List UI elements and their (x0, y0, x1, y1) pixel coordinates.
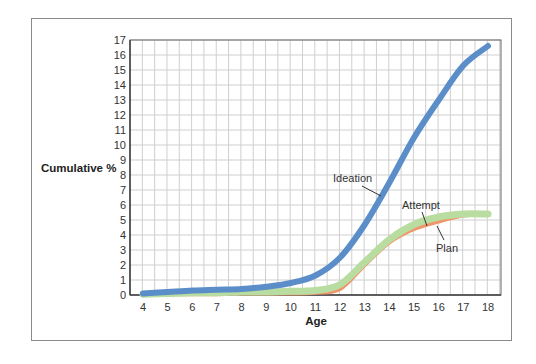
y-tick-label: 5 (120, 214, 126, 226)
x-tick-label: 18 (482, 301, 494, 313)
axes (130, 40, 501, 295)
x-axis-title: Age (305, 315, 327, 327)
y-tick-label: 17 (114, 34, 126, 46)
x-tick-label: 8 (239, 301, 245, 313)
y-tick-label: 11 (115, 124, 126, 136)
x-tick-label: 5 (165, 301, 171, 313)
y-tick-label: 12 (114, 109, 126, 121)
x-tick-label: 4 (140, 301, 146, 313)
y-tick-label: 13 (114, 94, 126, 106)
grid-lines (130, 40, 501, 295)
x-tick-label: 13 (359, 301, 371, 313)
y-tick-label: 16 (114, 49, 126, 61)
annotation-label-attempt: Attempt (402, 199, 440, 211)
x-tick-label: 16 (433, 301, 445, 313)
y-tick-label: 1 (120, 274, 126, 286)
x-tick-label: 15 (408, 301, 420, 313)
y-tick-label: 3 (120, 244, 126, 256)
annotation-leader-ideation (362, 186, 381, 196)
plot-border (130, 40, 501, 295)
x-tick-label: 9 (263, 301, 269, 313)
series-line-attempt (143, 214, 488, 294)
x-tick-label: 6 (189, 301, 195, 313)
x-tick-label: 12 (334, 301, 346, 313)
series-lines (143, 46, 488, 295)
y-tick-label: 8 (120, 169, 126, 181)
series-line-plan (143, 214, 488, 295)
x-tick-label: 10 (285, 301, 297, 313)
y-axis-title: Cumulative % (41, 162, 116, 174)
y-tick-label: 7 (120, 184, 126, 196)
annotation-label-ideation: Ideation (333, 172, 372, 184)
x-tick-label: 14 (383, 301, 395, 313)
y-tick-label: 2 (120, 259, 126, 271)
line-chart: 01234567891011121314151617 4567891011121… (0, 0, 536, 364)
y-tick-label: 6 (120, 199, 126, 211)
series-line-ideation (143, 46, 488, 294)
y-tick-label: 15 (114, 64, 126, 76)
y-tick-label: 14 (114, 79, 126, 91)
x-tick-label: 11 (310, 301, 321, 313)
y-tick-label: 4 (120, 229, 126, 241)
y-tick-label: 0 (120, 289, 126, 301)
y-tick-label: 10 (114, 139, 126, 151)
y-tick-label: 9 (120, 154, 126, 166)
x-axis-ticks: 456789101112131415161718 (140, 301, 494, 313)
annotation-label-plan: Plan (436, 242, 458, 254)
x-tick-label: 7 (214, 301, 220, 313)
x-tick-label: 17 (457, 301, 469, 313)
